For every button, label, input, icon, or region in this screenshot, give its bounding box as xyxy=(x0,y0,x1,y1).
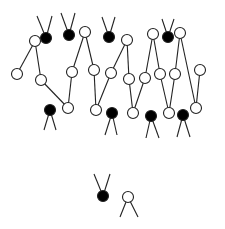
tree-edge xyxy=(180,33,196,108)
black-node xyxy=(146,111,157,122)
white-node xyxy=(89,65,100,76)
white-node xyxy=(148,29,159,40)
white-node xyxy=(91,105,102,116)
white-node xyxy=(191,103,202,114)
white-node xyxy=(155,69,166,80)
white-node xyxy=(195,65,206,76)
white-node xyxy=(164,108,175,119)
tree-diagram-canvas xyxy=(0,0,225,229)
white-node xyxy=(67,67,78,78)
white-node xyxy=(63,103,74,114)
black-node xyxy=(104,32,115,43)
black-node xyxy=(45,105,56,116)
tree-edge xyxy=(153,34,160,74)
white-node xyxy=(170,69,181,80)
white-node xyxy=(123,192,134,203)
black-node xyxy=(178,110,189,121)
white-node xyxy=(12,69,23,80)
white-node xyxy=(128,108,139,119)
black-node xyxy=(98,191,109,202)
white-node xyxy=(30,36,41,47)
white-node xyxy=(140,73,151,84)
tree-edge xyxy=(175,33,180,74)
tree-edge xyxy=(145,34,153,78)
black-node xyxy=(163,32,174,43)
white-node xyxy=(122,35,133,46)
white-node xyxy=(80,27,91,38)
white-node xyxy=(106,68,117,79)
black-node xyxy=(41,33,52,44)
white-node xyxy=(124,74,135,85)
tree-diagram xyxy=(0,0,225,229)
white-node xyxy=(36,75,47,86)
white-node xyxy=(175,28,186,39)
black-node xyxy=(64,30,75,41)
black-node xyxy=(107,108,118,119)
